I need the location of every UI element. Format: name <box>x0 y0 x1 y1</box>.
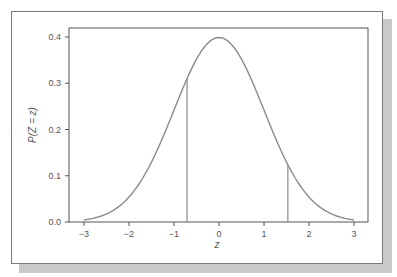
x-tick-label: 2 <box>306 229 311 239</box>
x-tick-label: 3 <box>351 229 356 239</box>
y-tick-label: 0.2 <box>48 125 61 135</box>
y-axis-label: P(Z = z) <box>27 107 38 143</box>
y-tick-label: 0.1 <box>48 171 61 181</box>
x-axis: −3−2−10123 <box>79 222 357 239</box>
plot-area <box>69 28 368 222</box>
x-tick-label: −3 <box>79 229 89 239</box>
y-tick-label: 0.0 <box>48 217 61 227</box>
x-tick-label: 0 <box>216 229 221 239</box>
x-tick-label: −1 <box>169 229 179 239</box>
x-tick-label: 1 <box>261 229 266 239</box>
y-axis: 0.00.10.20.30.4 <box>48 32 69 227</box>
y-tick-label: 0.4 <box>48 32 61 42</box>
x-axis-label: z <box>214 239 220 250</box>
x-tick-label: −2 <box>124 229 134 239</box>
y-tick-label: 0.3 <box>48 78 61 88</box>
normal-distribution-chart: 0.00.10.20.30.4 −3−2−10123 z P(Z = z) <box>0 0 397 277</box>
